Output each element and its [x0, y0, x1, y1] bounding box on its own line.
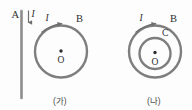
loop-current-label-I-na: I — [139, 13, 144, 23]
panel-ga: A I I B O (가) — [12, 9, 88, 107]
loop-label-B: B — [76, 13, 83, 24]
wire-current-label-I: I — [31, 9, 36, 19]
outer-loop-label-B: B — [170, 13, 177, 24]
wire-label-A: A — [12, 9, 20, 20]
center-point-dot-na — [153, 51, 156, 54]
inner-loop-label-C: C — [162, 28, 168, 38]
figure-canvas: A I I B O (가) — [0, 0, 192, 110]
caption-panel-na: (나) — [147, 96, 161, 106]
center-point-dot — [59, 49, 62, 52]
center-label-O-na: O — [152, 57, 159, 67]
caption-panel-ga: (가) — [53, 96, 67, 106]
panel-na: I B C O (나) — [129, 13, 181, 107]
loop-current-label-I: I — [45, 13, 50, 23]
center-label-O: O — [58, 55, 65, 65]
physics-figure: A I I B O (가) — [0, 0, 192, 110]
